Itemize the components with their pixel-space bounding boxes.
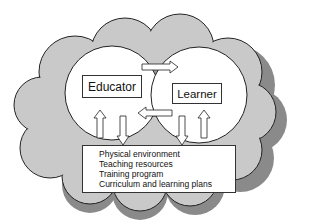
environment-item: Teaching resources: [99, 159, 235, 169]
learner-label: Learner: [177, 88, 217, 100]
learner-box: Learner: [172, 83, 222, 104]
educator-box: Educator: [82, 75, 142, 98]
educator-label: Educator: [88, 80, 136, 94]
environment-item: Physical environment: [99, 149, 235, 159]
environment-item: Curriculum and learning plans: [99, 179, 235, 189]
environment-item: Training program: [99, 169, 235, 179]
environment-box: Physical environment Teaching resources …: [82, 145, 236, 193]
